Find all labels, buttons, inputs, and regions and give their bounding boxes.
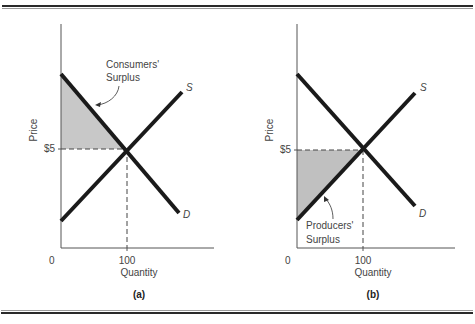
- supply-label: S: [420, 82, 427, 93]
- panel-label: (a): [133, 289, 145, 300]
- origin-label: 0: [49, 255, 55, 266]
- bottom-rule: [1, 310, 473, 314]
- annotation-arrow: [97, 86, 119, 105]
- top-rule: [2, 5, 473, 9]
- demand-label: D: [419, 208, 426, 219]
- annotation-line2: Surplus: [306, 234, 340, 245]
- panel-a: S D Consumers' Surplus $5 0 100 Quantity…: [28, 24, 214, 300]
- arrowhead-icon: [95, 102, 101, 107]
- annotation-line1: Producers': [306, 220, 354, 231]
- y-axis-label: Price: [264, 118, 275, 141]
- x-axis-label: Quantity: [120, 267, 157, 278]
- x-axis-label: Quantity: [354, 267, 391, 278]
- panel-label: (b): [367, 289, 380, 300]
- price-tick-label: $5: [44, 143, 56, 154]
- arrowhead-icon: [324, 196, 329, 202]
- annotation-line1: Consumers': [106, 59, 159, 70]
- annotation-line2: Surplus: [106, 72, 140, 83]
- price-tick-label: $5: [280, 144, 292, 155]
- demand-label: D: [183, 209, 190, 220]
- quantity-tick-label: 100: [355, 255, 372, 266]
- annotation-arrow: [326, 199, 333, 219]
- panel-b: S D Producers' Surplus $5 0 100 Quantity…: [264, 24, 455, 300]
- quantity-tick-label: 100: [119, 255, 136, 266]
- figure: S D Consumers' Surplus $5 0 100 Quantity…: [0, 0, 475, 324]
- y-axis-label: Price: [28, 118, 39, 141]
- supply-label: S: [186, 82, 193, 93]
- origin-label: 0: [285, 255, 291, 266]
